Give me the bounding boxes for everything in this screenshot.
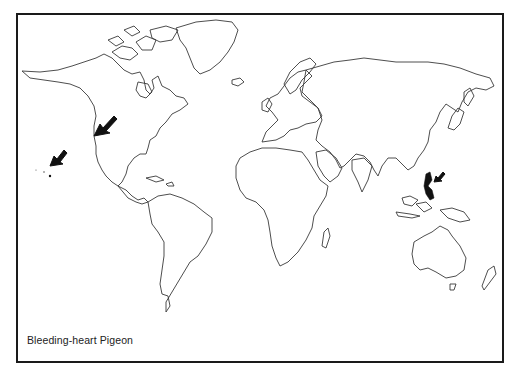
hawaii-islands bbox=[43, 171, 45, 173]
africa bbox=[236, 148, 328, 266]
philippines-range bbox=[424, 172, 434, 200]
arrow-hawaii-icon bbox=[50, 150, 67, 166]
australia bbox=[412, 226, 466, 278]
world-map bbox=[0, 0, 513, 379]
north-america bbox=[22, 54, 188, 186]
greenland bbox=[176, 20, 238, 74]
arrow-west-coast-icon bbox=[94, 116, 117, 136]
asia bbox=[302, 58, 494, 176]
map-caption: Bleeding-heart Pigeon bbox=[27, 334, 133, 346]
arrow-philippines-icon bbox=[434, 172, 445, 182]
south-america bbox=[148, 194, 212, 312]
